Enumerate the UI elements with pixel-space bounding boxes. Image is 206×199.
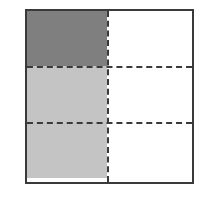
row-divider-2: [27, 122, 192, 124]
cell-r2-c1-light: [27, 66, 107, 122]
cell-r3-c2-blank: [108, 123, 192, 182]
cell-r2-c2-blank: [108, 67, 192, 122]
fraction-rectangle: [25, 9, 194, 184]
cell-r3-c1-light: [27, 122, 107, 178]
column-divider: [107, 11, 109, 182]
cell-r1-c1-dark: [27, 11, 107, 66]
row-divider-1: [27, 66, 192, 68]
cell-r1-c2-blank: [108, 11, 192, 66]
